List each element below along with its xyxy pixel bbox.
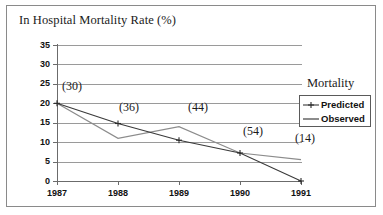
annotation-1990: (54)	[243, 124, 263, 139]
series-markers-predicted	[54, 100, 304, 184]
annotation-1991: (14)	[295, 131, 315, 146]
annotation-1988: (36)	[119, 100, 139, 115]
series-line-observed	[57, 103, 301, 159]
annotation-1989: (44)	[188, 100, 208, 115]
marker-1987	[54, 100, 60, 106]
legend-box: Predicted Observed	[299, 95, 371, 127]
legend-item-observed[interactable]: Observed	[303, 112, 369, 126]
marker-1989	[176, 137, 182, 143]
legend-label-predicted: Predicted	[321, 99, 364, 110]
chart-screenshot: In Hospital Mortality Rate (%) 35 30 25 …	[0, 0, 383, 215]
annotation-1987: (30)	[62, 79, 82, 94]
legend-item-predicted[interactable]: Predicted	[303, 98, 369, 112]
legend-swatch-predicted	[303, 104, 319, 106]
marker-1988	[115, 121, 121, 127]
legend-label-observed: Observed	[321, 113, 365, 124]
marker-1991	[298, 178, 304, 184]
legend-swatch-observed	[303, 118, 319, 120]
legend-title: Mortality	[307, 76, 354, 91]
marker-1990	[237, 150, 243, 156]
